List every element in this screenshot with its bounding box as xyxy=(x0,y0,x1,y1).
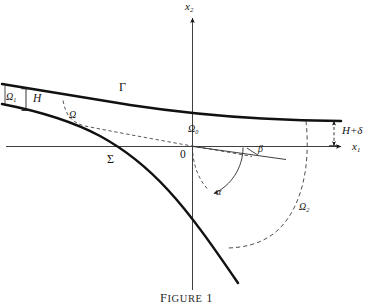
region-label-omega0: Ω0 xyxy=(188,124,198,135)
region-label-omega: Ω xyxy=(69,110,76,120)
curve-sigma xyxy=(2,104,238,283)
height-label-h: H xyxy=(33,93,41,105)
axis-label-x2: x2 xyxy=(185,1,193,14)
curve-label-gamma: Γ xyxy=(119,81,126,93)
region-label-omega1: Ω1 xyxy=(6,92,16,103)
beta-ray xyxy=(193,147,286,160)
angle-label-alpha: α xyxy=(216,187,221,197)
height-label-h-plus-delta: H+δ xyxy=(342,125,362,136)
figure-caption: FIGURE 1 xyxy=(0,291,373,304)
dashed-arc-alpha xyxy=(193,147,210,191)
height-bar-right xyxy=(329,121,339,146)
angle-label-beta: β xyxy=(258,144,263,154)
origin-label: 0 xyxy=(180,149,186,161)
axis-label-x1: x1 xyxy=(352,141,360,154)
figure-diagram: x2 x1 0 Γ Σ Ω1 H Ω Ω0 Ω2 α β H+δ FIGURE … xyxy=(0,0,373,304)
dashed-arc-omega2 xyxy=(228,121,307,248)
region-label-omega2: Ω2 xyxy=(299,202,309,213)
figure-canvas xyxy=(0,0,373,304)
curve-label-sigma: Σ xyxy=(107,153,114,165)
